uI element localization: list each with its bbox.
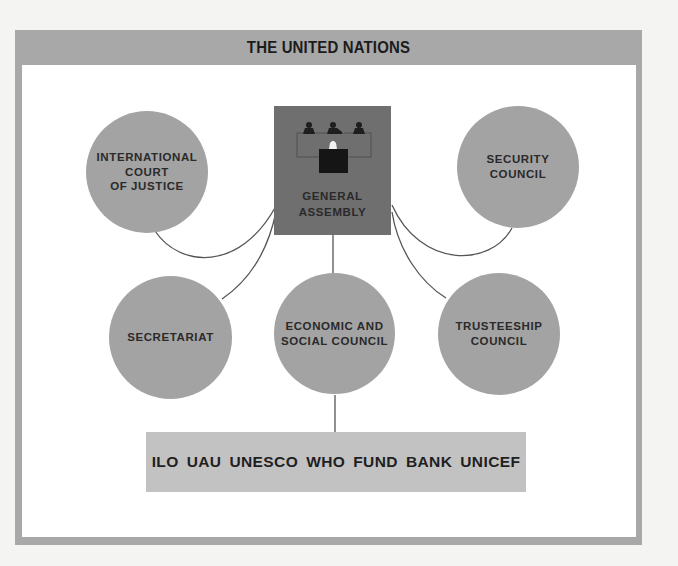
connector-ga-trusteeship xyxy=(392,212,446,298)
organ-label: INTERNATIONAL COURT OF JUSTICE xyxy=(97,150,198,195)
assembly-podium-icon xyxy=(274,106,391,186)
agency-unicef[interactable]: UNICEF xyxy=(460,453,520,471)
organ-label: SECURITY COUNCIL xyxy=(487,152,550,182)
organ-international-court-of-justice[interactable]: INTERNATIONAL COURT OF JUSTICE xyxy=(86,111,208,233)
organ-label: ECONOMIC AND SOCIAL COUNCIL xyxy=(281,319,388,349)
organ-trusteeship-council[interactable]: TRUSTEESHIP COUNCIL xyxy=(438,273,560,395)
organ-security-council[interactable]: SECURITY COUNCIL xyxy=(457,106,579,228)
agency-unesco[interactable]: UNESCO xyxy=(229,453,298,471)
organ-label: TRUSTEESHIP COUNCIL xyxy=(455,319,542,349)
agency-who[interactable]: WHO xyxy=(306,453,345,471)
specialized-agencies-box: ILO UAU UNESCO WHO FUND BANK UNICEF xyxy=(146,432,526,492)
organ-general-assembly[interactable]: GENERAL ASSEMBLY xyxy=(274,106,391,235)
general-assembly-label: GENERAL ASSEMBLY xyxy=(274,189,391,220)
organ-secretariat[interactable]: SECRETARIAT xyxy=(109,276,232,399)
agency-uau[interactable]: UAU xyxy=(187,453,222,471)
agency-fund[interactable]: FUND xyxy=(353,453,398,471)
agency-bank[interactable]: BANK xyxy=(406,453,452,471)
organ-economic-and-social-council[interactable]: ECONOMIC AND SOCIAL COUNCIL xyxy=(274,273,395,394)
organ-label: SECRETARIAT xyxy=(127,330,214,345)
agency-ilo[interactable]: ILO xyxy=(152,453,179,471)
connector-ga-secretariat xyxy=(222,212,276,299)
